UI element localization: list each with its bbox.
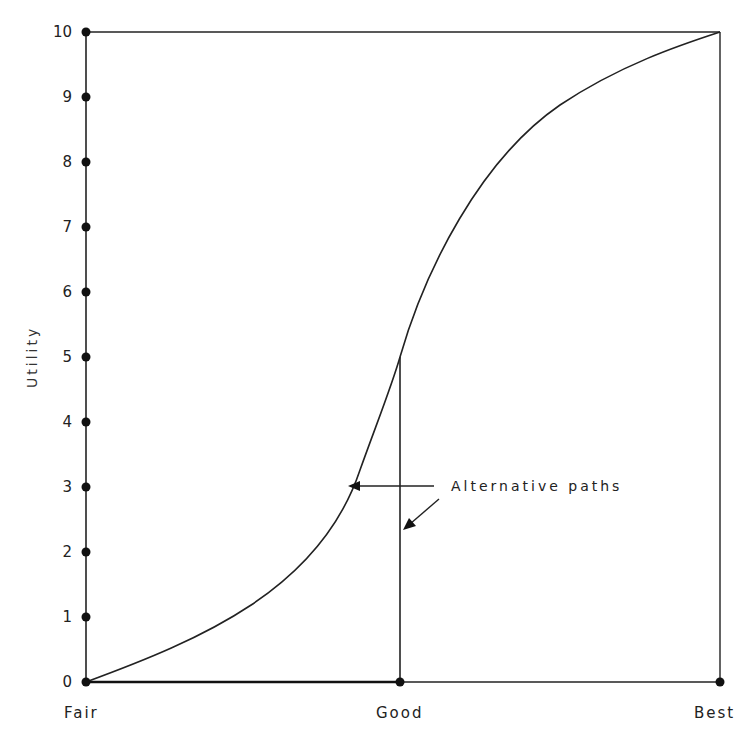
y-tick-label-8: 8 (52, 153, 72, 171)
y-tick-label-4: 4 (52, 413, 72, 431)
y-tick-label-10: 10 (52, 23, 72, 41)
y-tick-label-6: 6 (52, 283, 72, 301)
y-tick-label-9: 9 (52, 88, 72, 106)
best-point (716, 678, 725, 687)
y-tick-label-7: 7 (52, 218, 72, 236)
utility-chart (0, 0, 755, 739)
x-label-fair: Fair (64, 704, 99, 722)
annotation-label: Alternative paths (451, 478, 622, 494)
x-label-best: Best (694, 704, 735, 722)
x-label-good: Good (376, 704, 424, 722)
annotation-arrows (348, 481, 439, 530)
y-tick-label-3: 3 (52, 478, 72, 496)
y-axis-label: Utility (24, 326, 40, 388)
y-tick-label-0: 0 (52, 673, 72, 691)
y-tick-label-2: 2 (52, 543, 72, 561)
good-point (396, 678, 405, 687)
y-tick-label-1: 1 (52, 608, 72, 626)
y-tick-label-5: 5 (52, 348, 72, 366)
curved-path (86, 32, 720, 682)
